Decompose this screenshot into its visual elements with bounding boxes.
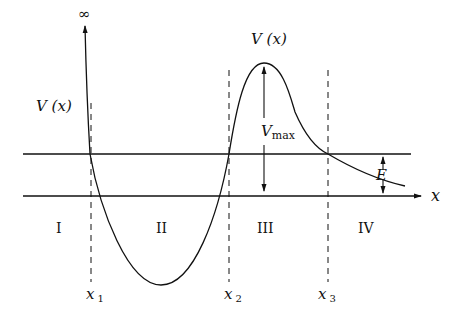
- energy-label: E: [375, 166, 387, 184]
- potential-curve: [90, 63, 405, 285]
- infinity-label: ∞: [78, 5, 91, 23]
- turning-point-x1: x1: [86, 285, 104, 304]
- potential-label-left: V (x): [36, 97, 72, 115]
- turning-point-x2: x2: [224, 285, 242, 304]
- vmax-label: Vmax: [261, 122, 296, 142]
- region-label-1: I: [56, 220, 62, 236]
- potential-label-peak: V (x): [251, 30, 287, 48]
- turning-point-x3: x3: [318, 285, 336, 304]
- region-label-4: IV: [358, 220, 375, 236]
- region-label-3: III: [257, 220, 274, 236]
- potential-diagram: x ∞ Vmax E V (x) V (x) I II III IV x1 x2…: [0, 0, 464, 318]
- infinite-wall-curve: [85, 26, 90, 154]
- x-axis-label: x: [431, 186, 440, 205]
- region-label-2: II: [156, 220, 167, 236]
